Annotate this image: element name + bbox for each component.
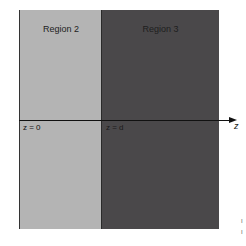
boundary-label-zd: z = d bbox=[106, 123, 124, 132]
margin-mark: I bbox=[241, 218, 243, 224]
boundary-label-z0: z = 0 bbox=[23, 123, 41, 132]
region-2-label: Region 2 bbox=[20, 24, 102, 34]
z-axis-line bbox=[19, 120, 232, 121]
z-axis-label: z bbox=[234, 121, 239, 131]
margin-mark: I bbox=[241, 229, 243, 235]
region-3-label: Region 3 bbox=[102, 24, 219, 34]
